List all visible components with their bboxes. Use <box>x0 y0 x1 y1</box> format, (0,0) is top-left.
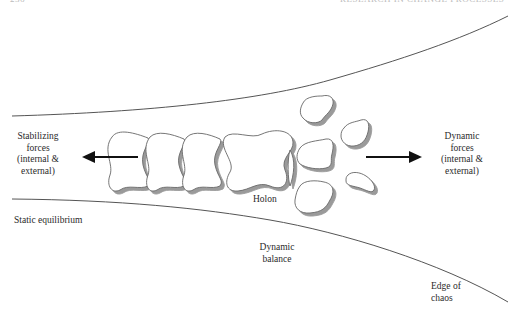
dynamic-arrow <box>366 151 422 163</box>
holon-shape-2 <box>146 133 185 191</box>
dynamic-forces-label: Dynamic forces (internal & external) <box>434 131 490 177</box>
fragment-5 <box>346 172 375 191</box>
dynamic-balance-label: Dynamic balance <box>255 242 299 265</box>
static-equilibrium-label: Static equilibrium <box>14 215 82 227</box>
holon-chain <box>108 131 293 191</box>
holon-fragments <box>288 95 374 213</box>
fragment-4 <box>295 181 333 213</box>
holon-shape-4 <box>223 131 293 191</box>
fragment-2 <box>341 120 369 146</box>
fragment-1 <box>300 95 333 122</box>
fragment-3 <box>297 139 333 169</box>
edge-of-chaos-label: Edge of chaos <box>431 281 461 304</box>
upper-boundary-curve <box>12 16 508 116</box>
fragment-6 <box>288 150 294 186</box>
holon-shape-3 <box>182 133 221 191</box>
holon-shape-1 <box>108 132 149 191</box>
stabilizing-forces-label: Stabilizing forces (internal & external) <box>10 131 66 177</box>
holon-label: Holon <box>253 194 277 206</box>
